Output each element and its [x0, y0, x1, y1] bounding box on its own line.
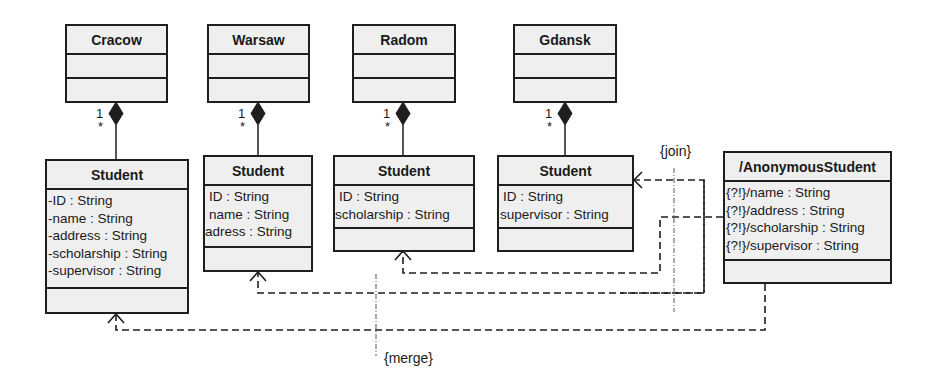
class-anonymous-student[interactable]: /AnonymousStudent {?!}/name : String {?!… — [723, 151, 892, 284]
class-student-cracow[interactable]: Student -ID : String -name : String -add… — [45, 159, 189, 314]
attributes-compartment: ID : String scholarship : String — [335, 186, 473, 229]
attributes-compartment — [209, 55, 308, 79]
attribute: -scholarship : String — [48, 245, 187, 263]
composition-gdansk — [558, 102, 572, 155]
dependency-to-warsaw — [258, 273, 704, 293]
attributes-compartment — [67, 55, 166, 79]
class-radom[interactable]: Radom — [352, 24, 456, 103]
attributes-compartment: -ID : String -name : String -address : S… — [47, 190, 187, 289]
composition-warsaw — [251, 102, 265, 155]
class-student-radom[interactable]: Student ID : String scholarship : String — [333, 155, 475, 252]
class-gdansk[interactable]: Gdansk — [513, 24, 617, 103]
attribute: -name : String — [48, 210, 187, 228]
attributes-compartment: ID : String name : String adress : Strin… — [205, 186, 311, 248]
composition-diamond-icon — [109, 102, 123, 125]
multiplicity-many: * — [547, 119, 552, 134]
class-name: Student — [499, 157, 632, 186]
attribute: ID : String — [503, 188, 632, 206]
composition-diamond-icon — [251, 102, 265, 125]
class-student-warsaw[interactable]: Student ID : String name : String adress… — [203, 155, 313, 272]
class-cracow[interactable]: Cracow — [65, 24, 168, 103]
attributes-compartment: {?!}/name : String {?!}/address : String… — [725, 182, 890, 261]
class-student-gdansk[interactable]: Student ID : String supervisor : String — [497, 155, 634, 252]
join-constraint-label: {join} — [660, 143, 691, 159]
attribute: name : String — [209, 206, 311, 224]
class-name: Gdansk — [515, 26, 615, 55]
composition-cracow — [109, 102, 123, 159]
attribute: ID : String — [339, 188, 473, 206]
class-name: Student — [335, 157, 473, 186]
class-name: /AnonymousStudent — [725, 153, 890, 182]
multiplicity-many: * — [240, 119, 245, 134]
class-name: Warsaw — [209, 26, 308, 55]
attribute: -ID : String — [48, 192, 187, 210]
attribute: scholarship : String — [335, 206, 473, 224]
attributes-compartment — [515, 55, 615, 79]
attribute: {?!}/scholarship : String — [726, 219, 890, 237]
composition-diamond-icon — [396, 102, 410, 125]
multiplicity-many: * — [98, 119, 103, 134]
attribute: -supervisor : String — [48, 262, 187, 280]
multiplicity-many: * — [385, 119, 390, 134]
class-name: Student — [47, 161, 187, 190]
attribute: -address : String — [48, 227, 187, 245]
attribute: ID : String — [209, 188, 311, 206]
class-name: Student — [205, 157, 311, 186]
class-name: Radom — [354, 26, 454, 55]
class-warsaw[interactable]: Warsaw — [207, 24, 310, 103]
attribute: supervisor : String — [500, 206, 632, 224]
attribute: {?!}/name : String — [726, 184, 890, 202]
class-name: Cracow — [67, 26, 166, 55]
attribute: {?!}/address : String — [726, 202, 890, 220]
composition-radom — [396, 102, 410, 155]
dependency-to-cracow — [116, 284, 765, 330]
attribute: adress : String — [205, 223, 311, 241]
merge-constraint-label: {merge} — [384, 350, 433, 366]
attributes-compartment — [354, 55, 454, 79]
attribute: {?!}/supervisor : String — [726, 237, 890, 255]
attributes-compartment: ID : String supervisor : String — [499, 186, 632, 229]
composition-diamond-icon — [558, 102, 572, 125]
